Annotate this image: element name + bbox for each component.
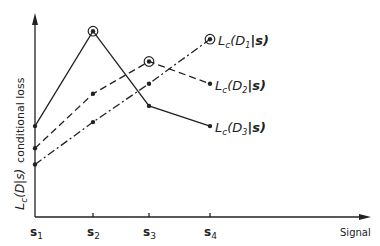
series-line-3 xyxy=(35,39,210,164)
data-point-marker-icon xyxy=(147,59,151,63)
data-point-marker-icon xyxy=(33,146,37,150)
x-tick-label-s2: s2 xyxy=(87,225,100,241)
x-axis-label: Signal xyxy=(340,227,371,238)
y-axis-arrow-icon xyxy=(32,13,38,25)
series-points xyxy=(33,26,215,166)
x-tick-label-s3: s3 xyxy=(143,225,156,241)
data-point-marker-icon xyxy=(91,92,95,96)
data-point-marker-icon xyxy=(147,104,151,108)
series-lines xyxy=(35,31,210,164)
data-point-marker-icon xyxy=(208,37,212,41)
axes xyxy=(32,13,371,220)
series-line-2 xyxy=(35,62,210,149)
y-axis-label: Lc(D|s)conditional loss xyxy=(12,77,29,210)
x-axis-arrow-icon xyxy=(359,214,371,220)
x-tick-labels: s1 s2 s3 s4 xyxy=(30,225,217,241)
series-label-d2: Lc(D2|s) xyxy=(215,78,266,95)
data-point-marker-icon xyxy=(208,82,212,86)
series-label-d1: Lc(D1|s) xyxy=(218,33,269,50)
data-point-marker-icon xyxy=(33,162,37,166)
conditional-loss-chart: Lc(D1|s) Lc(D2|s) Lc(D3|s) s1 s2 s3 s4 S… xyxy=(0,0,380,246)
data-point-marker-icon xyxy=(91,120,95,124)
data-point-marker-icon xyxy=(147,82,151,86)
data-point-marker-icon xyxy=(208,124,212,128)
data-point-marker-icon xyxy=(91,29,95,33)
series-labels: Lc(D1|s) Lc(D2|s) Lc(D3|s) xyxy=(215,33,269,137)
series-label-d3: Lc(D3|s) xyxy=(215,120,266,137)
x-tick-label-s4: s4 xyxy=(204,225,217,241)
data-point-marker-icon xyxy=(33,124,37,128)
x-tick-label-s1: s1 xyxy=(30,225,43,241)
series-line-1 xyxy=(35,31,210,126)
